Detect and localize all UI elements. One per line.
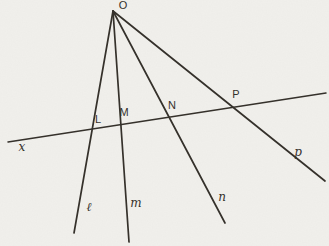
- point-label-N: N: [168, 99, 176, 111]
- line-label-l: ℓ: [87, 200, 92, 214]
- point-label-M: M: [119, 106, 128, 118]
- line-label-p: p: [294, 145, 302, 159]
- vertex-label-O: O: [119, 0, 128, 11]
- scanned-book-page: OLMNPxℓmnp: [0, 0, 329, 246]
- paper-texture: [0, 0, 329, 246]
- point-label-L: L: [95, 113, 101, 125]
- line-label-x: x: [19, 140, 26, 154]
- line-label-m: m: [130, 196, 141, 210]
- geometry-figure: OLMNPxℓmnp: [0, 0, 329, 246]
- line-label-n: n: [218, 190, 226, 204]
- point-label-P: P: [232, 88, 239, 100]
